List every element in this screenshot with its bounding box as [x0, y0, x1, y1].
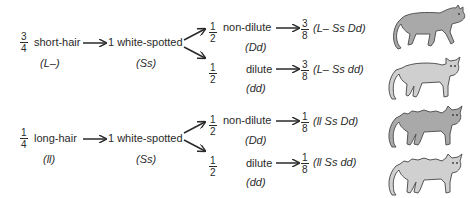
arrow-branch-up-icon — [184, 29, 205, 40]
arrow-branch-up-icon — [184, 122, 205, 133]
arrow-branch-down-icon — [184, 140, 205, 151]
light-gray-short-hair-cat-icon — [384, 56, 468, 100]
arrow-branch-down-icon — [184, 47, 205, 58]
dark-gray-long-hair-cat-icon — [384, 104, 468, 148]
dark-gray-short-hair-cat-icon — [388, 4, 468, 50]
light-gray-long-hair-cat-icon — [384, 150, 468, 196]
